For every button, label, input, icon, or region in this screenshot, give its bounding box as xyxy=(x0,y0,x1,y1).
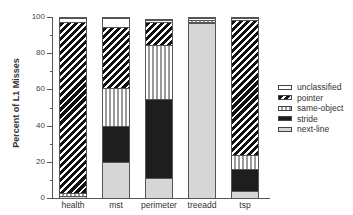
y-axis-line xyxy=(52,17,53,198)
segment-next-line xyxy=(103,162,129,198)
bar-health xyxy=(59,17,87,199)
bar-tsp xyxy=(231,17,259,199)
segment-pointer xyxy=(60,22,86,193)
bar-mst xyxy=(102,17,130,199)
legend-swatch-icon xyxy=(278,106,292,111)
segment-same-object xyxy=(232,155,258,169)
segment-next-line xyxy=(146,178,172,198)
legend-item-next-line: next-line xyxy=(278,124,343,135)
legend-label: pointer xyxy=(297,93,323,103)
bar-treeadd xyxy=(188,17,216,199)
segment-next-line xyxy=(60,196,86,198)
legend-swatch-icon xyxy=(278,85,292,90)
y-tick-label: 100 xyxy=(25,12,45,21)
x-tick-label: tsp xyxy=(220,200,270,210)
y-tick-label: 60 xyxy=(25,84,45,93)
legend: unclassifiedpointersame-objectstridenext… xyxy=(278,82,343,135)
segment-next-line xyxy=(232,191,258,198)
legend-item-same-object: same-object xyxy=(278,103,343,114)
y-axis-label: Percent of L1 Misses xyxy=(11,53,21,153)
y-tick-label: 0 xyxy=(25,193,45,202)
segment-pointer xyxy=(146,22,172,45)
legend-item-stride: stride xyxy=(278,114,343,125)
segment-same-object xyxy=(103,88,129,126)
segment-stride xyxy=(232,169,258,191)
stacked-bar-chart: Percent of L1 Misses 020406080100 health… xyxy=(0,0,353,215)
segment-pointer xyxy=(103,27,129,88)
y-tick-label: 80 xyxy=(25,48,45,57)
segment-stride xyxy=(103,126,129,162)
legend-label: stride xyxy=(297,114,318,124)
segment-same-object xyxy=(146,45,172,99)
legend-swatch-icon xyxy=(278,127,292,132)
legend-swatch-icon xyxy=(278,116,292,121)
legend-item-pointer: pointer xyxy=(278,93,343,104)
legend-label: unclassified xyxy=(297,82,341,92)
segment-pointer xyxy=(232,20,258,155)
legend-swatch-icon xyxy=(278,95,292,100)
legend-label: next-line xyxy=(297,124,329,134)
segment-stride xyxy=(146,99,172,178)
legend-item-unclassified: unclassified xyxy=(278,82,343,93)
segment-next-line xyxy=(189,23,215,198)
y-tick-label: 40 xyxy=(25,121,45,130)
segment-unclassified xyxy=(103,18,129,27)
bar-perimeter xyxy=(145,19,173,199)
y-tick-label: 20 xyxy=(25,157,45,166)
legend-label: same-object xyxy=(297,103,343,113)
